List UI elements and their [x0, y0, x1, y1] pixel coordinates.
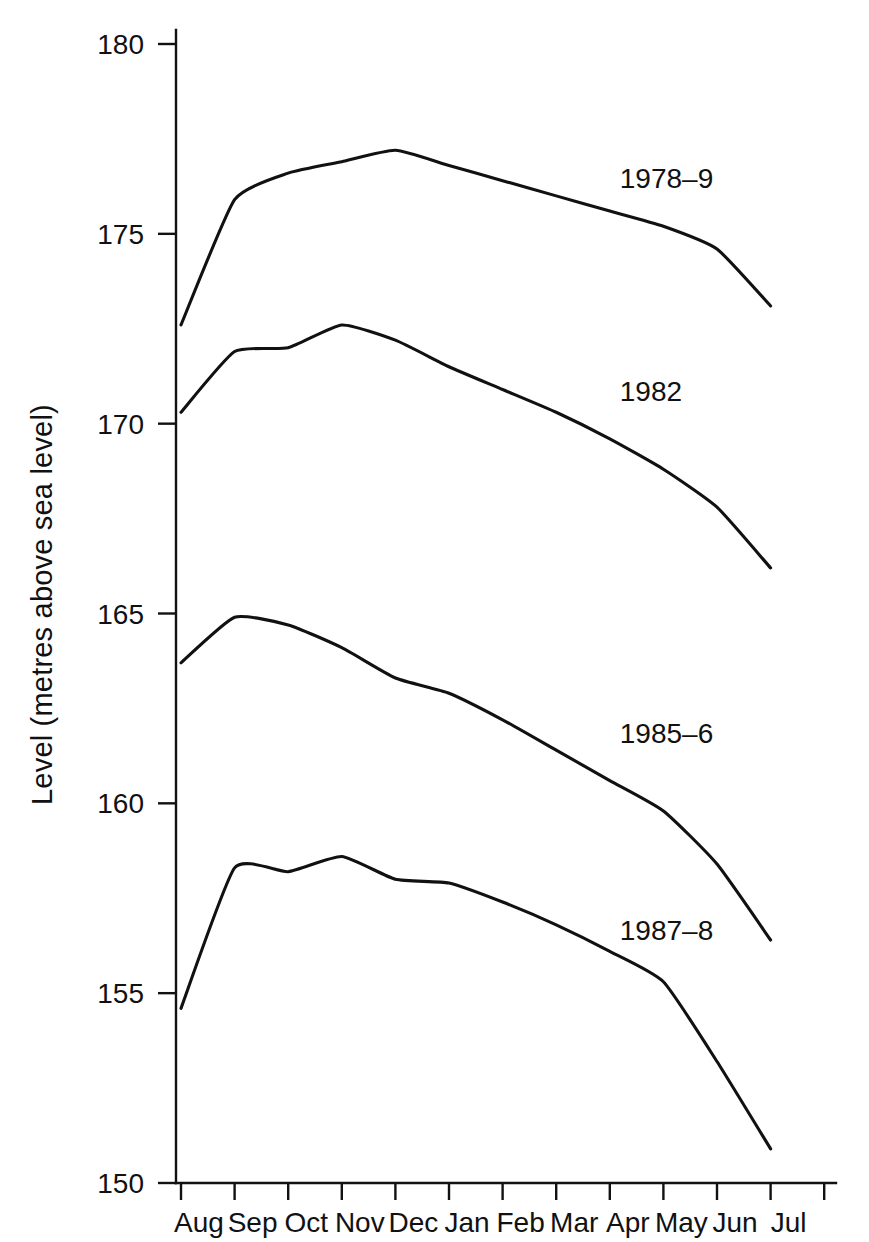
x-axis-tick-label: Apr [606, 1207, 650, 1238]
y-axis-tick-label: 160 [97, 788, 144, 819]
plot-area: 150155160165170175180 AugSepOctNovDecJan… [0, 0, 869, 1242]
x-axis-tick-label: Mar [550, 1207, 598, 1238]
x-axis-tick-label: Jun [712, 1207, 757, 1238]
x-axis-tick-label: Nov [335, 1207, 385, 1238]
y-axis-tick-label: 180 [97, 29, 144, 60]
series-label-1978-9: 1978–9 [620, 163, 713, 194]
x-axis-tick-label: Oct [284, 1207, 328, 1238]
series-line-1982 [181, 325, 771, 568]
y-axis-tick-label: 150 [97, 1168, 144, 1199]
series-line-1987-8 [181, 856, 771, 1148]
x-axis-tick-label: Dec [389, 1207, 439, 1238]
x-axis-tick-label: Jul [771, 1207, 807, 1238]
y-axis-tick-label: 175 [97, 219, 144, 250]
x-axis-tick-label: Sep [228, 1207, 278, 1238]
series-annotation-group: 1978–919821985–61987–8 [620, 163, 713, 946]
x-axis-tick-label: Feb [496, 1207, 544, 1238]
y-axis-tick-label: 170 [97, 409, 144, 440]
series-label-1982: 1982 [620, 376, 682, 407]
y-axis-tick-label: 165 [97, 599, 144, 630]
line-chart: Level (metres above sea level) 150155160… [0, 0, 869, 1242]
x-axis-tick-label: Aug [174, 1207, 224, 1238]
series-group [181, 150, 771, 1149]
x-axis-tick-label: Jan [444, 1207, 489, 1238]
series-label-1985-6: 1985–6 [620, 718, 713, 749]
x-tick-group: AugSepOctNovDecJanFebMarAprMayJunJul [174, 1183, 824, 1238]
y-tick-group: 150155160165170175180 [97, 29, 176, 1199]
series-label-1987-8: 1987–8 [620, 915, 713, 946]
x-axis-tick-label: May [655, 1207, 708, 1238]
y-axis-tick-label: 155 [97, 978, 144, 1009]
